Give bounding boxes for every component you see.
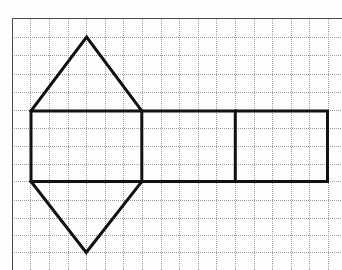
- grid-border: [12, 19, 342, 270]
- grid-lines: [12, 19, 342, 270]
- grid-paper-figure: [0, 0, 342, 270]
- prism-net-diagram: [0, 0, 342, 270]
